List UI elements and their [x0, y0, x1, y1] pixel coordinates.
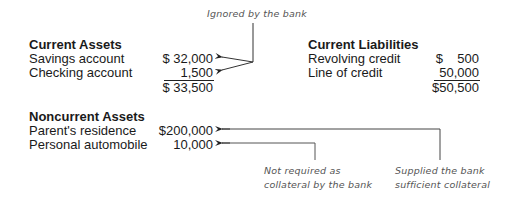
- checking-account-value: 1,500: [180, 65, 213, 80]
- savings-account-value: $ 32,000: [162, 51, 213, 66]
- revolving-credit-value: $ 500: [435, 51, 479, 66]
- current-assets-total: $ 33,500: [162, 80, 213, 95]
- personal-automobile-value: 10,000: [173, 137, 213, 152]
- annotation-supplied-line2: sufficient collateral: [395, 179, 490, 190]
- savings-account-label: Savings account: [29, 51, 124, 66]
- parents-residence-value: $200,000: [159, 123, 213, 138]
- checking-account-label: Checking account: [29, 65, 132, 80]
- revolving-credit-label: Revolving credit: [308, 51, 401, 66]
- annotation-not-required-line2: collateral by the bank: [264, 179, 372, 190]
- line-of-credit-value: 50,000: [439, 65, 479, 80]
- annotation-not-required-line1: Not required as: [264, 165, 341, 176]
- current-liabilities-title: Current Liabilities: [308, 37, 419, 52]
- personal-automobile-label: Personal automobile: [29, 137, 148, 152]
- current-assets-title: Current Assets: [29, 37, 122, 52]
- annotation-ignored: Ignored by the bank: [207, 8, 307, 19]
- current-liabilities-total: $50,500: [432, 80, 479, 95]
- noncurrent-assets-title: Noncurrent Assets: [29, 109, 145, 124]
- line-of-credit-label: Line of credit: [308, 65, 382, 80]
- parents-residence-label: Parent's residence: [29, 123, 136, 138]
- annotation-supplied-line1: Supplied the bank: [395, 165, 485, 176]
